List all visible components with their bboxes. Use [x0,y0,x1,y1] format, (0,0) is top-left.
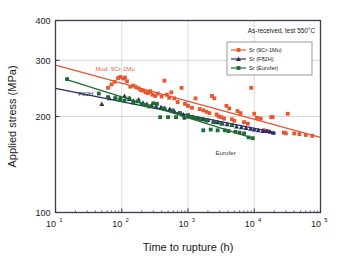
data-point [158,115,162,119]
data-point [194,96,198,100]
y-tick-label: 400 [35,16,50,26]
data-point [207,111,211,115]
legend-label: Sr (9Cr-1Mo) [249,47,282,53]
annotation-f82h: F82H [78,90,93,97]
data-point [190,106,194,110]
data-point [162,79,166,83]
data-point [246,122,250,126]
data-point [252,112,256,116]
legend-marker [237,48,241,52]
data-point [125,79,129,83]
data-point [232,119,236,123]
y-tick-label: 200 [35,112,50,122]
x-tick-label-base: 10 [112,219,122,229]
data-point [201,128,205,132]
data-point [123,76,127,80]
data-point [239,111,243,115]
data-point [259,117,263,121]
condition-annotation: As-received, test 550°C [248,27,316,34]
data-point [176,100,180,104]
data-point [242,120,246,124]
data-point [106,95,110,99]
data-point [199,117,203,121]
x-axis-title: Time to rupture (h) [143,241,234,253]
data-point [205,119,209,123]
x-tick-label-base: 10 [178,219,188,229]
y-tick-label: 300 [35,56,50,66]
data-point [155,102,159,106]
data-point [174,115,178,119]
data-point [227,107,231,111]
data-point [212,96,216,100]
data-point [286,112,290,116]
legend-label: Sr (Eurofer) [249,65,278,71]
y-tick-label: 100 [35,208,50,218]
y-axis-title: Applied stress (MPa) [6,65,18,167]
data-point [180,86,184,90]
data-point [186,113,190,117]
data-point [166,115,170,119]
annotation-mod-9cr-1mo: Mod. 9Cr-1Mo [95,65,135,72]
data-point [123,99,127,103]
data-point [284,132,288,136]
data-point [118,98,122,102]
legend-marker [237,66,241,70]
legend-label: Sr (F82H) [249,56,274,62]
data-point [212,120,216,124]
data-point [220,122,224,126]
data-point [97,92,101,96]
data-point [170,109,174,113]
data-point [230,123,234,127]
data-point [209,128,213,132]
chart-svg: 100200300400101102103104105Time to ruptu… [0,0,344,263]
creep-rupture-chart: 100200300400101102103104105Time to ruptu… [0,0,344,263]
data-point [198,107,202,111]
data-point [249,86,253,90]
data-point [297,132,301,136]
x-tick-label-base: 10 [245,219,255,229]
data-point [195,116,199,120]
data-point [106,86,110,90]
annotation-eurofer: Eurofer [215,149,235,156]
data-point [292,132,296,136]
data-point [113,96,117,100]
data-point [186,104,190,108]
x-tick-label-base: 10 [46,219,56,229]
data-point [151,101,155,105]
data-point [216,128,220,132]
data-point [160,95,164,99]
x-tick-label-base: 10 [311,219,321,229]
data-point [169,91,173,95]
data-point [222,117,226,121]
data-point [271,115,275,119]
